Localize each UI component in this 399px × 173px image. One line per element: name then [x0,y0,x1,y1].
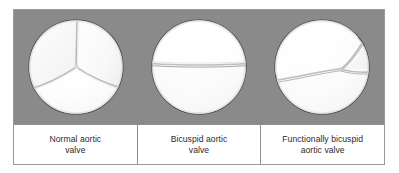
bicuspid-aortic-valve-diagram [150,18,248,116]
figure-frame: Normal aortic valve Bicuspid aortic valv… [13,9,385,165]
label-cell-functionally-bicuspid: Functionally bicuspid aortic valve [260,125,384,164]
tricuspid-aortic-valve-diagram [27,18,125,116]
label-cell-normal: Normal aortic valve [14,125,137,164]
valve-cell-bicuspid [137,10,260,124]
label-bicuspid-aortic-valve: Bicuspid aortic valve [171,134,228,155]
aortic-valve-morphology-figure: Normal aortic valve Bicuspid aortic valv… [0,0,399,173]
label-cell-bicuspid: Bicuspid aortic valve [137,125,261,164]
label-functionally-bicuspid-aortic-valve: Functionally bicuspid aortic valve [282,134,363,155]
valve-cell-functionally-bicuspid [260,10,383,124]
labels-row: Normal aortic valve Bicuspid aortic valv… [14,124,384,164]
label-normal-aortic-valve: Normal aortic valve [49,134,101,155]
valve-cell-normal [14,10,137,124]
valve-diagrams-row [14,10,384,124]
functionally-bicuspid-aortic-valve-diagram [273,18,371,116]
